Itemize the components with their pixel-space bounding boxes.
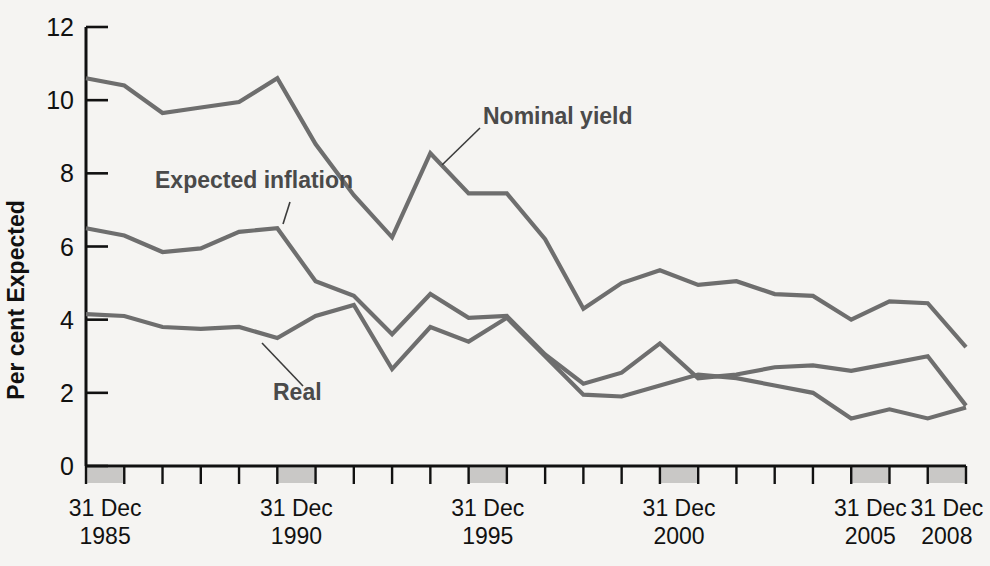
x-axis-interval-shade — [86, 468, 124, 483]
y-axis-title: Per cent Expected — [3, 200, 29, 399]
y-tick-label: 8 — [60, 159, 74, 187]
x-tick-label-line1: 31 Dec — [834, 495, 907, 521]
y-tick-label: 2 — [60, 379, 74, 407]
x-tick-label-line2: 1985 — [80, 523, 131, 549]
x-tick-label-line2: 1990 — [271, 523, 322, 549]
x-axis-tick-labels: 31 Dec198531 Dec199031 Dec199531 Dec2000… — [69, 495, 984, 549]
x-tick-label-line1: 31 Dec — [69, 495, 142, 521]
x-tick-label-line1: 31 Dec — [910, 495, 983, 521]
x-axis-shaded-intervals — [86, 468, 966, 483]
x-tick-label-line2: 2008 — [921, 523, 972, 549]
y-axis-tick-labels: 024681012 — [46, 13, 74, 480]
x-axis-tick-marks — [86, 466, 966, 484]
label-real: Real — [273, 379, 322, 405]
chart-page: Per cent Expected 024681012 31 Dec198531… — [0, 0, 990, 566]
x-axis-interval-shade — [469, 468, 507, 483]
x-tick-label-line1: 31 Dec — [451, 495, 524, 521]
y-tick-label: 4 — [60, 306, 74, 334]
label-expected-inflation: Expected inflation — [155, 167, 353, 193]
x-axis-interval-shade — [277, 468, 315, 483]
line-chart: Per cent Expected 024681012 31 Dec198531… — [0, 0, 990, 566]
x-tick-label-line1: 31 Dec — [260, 495, 333, 521]
x-tick-label-line2: 2000 — [653, 523, 704, 549]
y-axis-tick-marks — [86, 27, 108, 466]
series-group — [86, 78, 966, 418]
leader-line-expected-inflation — [283, 202, 290, 224]
y-tick-label: 0 — [60, 452, 74, 480]
leader-line-nominal-yield — [442, 128, 480, 165]
x-axis-interval-shade — [928, 468, 966, 483]
x-tick-label-line1: 31 Dec — [643, 495, 716, 521]
y-tick-label: 12 — [46, 13, 74, 41]
x-axis-interval-shade — [851, 468, 889, 483]
y-tick-label: 6 — [60, 233, 74, 261]
x-axis-interval-shade — [660, 468, 698, 483]
x-tick-label-line2: 2005 — [845, 523, 896, 549]
series-line-expected-inflation — [86, 228, 966, 405]
x-tick-label-line2: 1995 — [462, 523, 513, 549]
series-line-real — [86, 305, 966, 418]
y-tick-label: 10 — [46, 86, 74, 114]
label-nominal-yield: Nominal yield — [483, 103, 633, 129]
